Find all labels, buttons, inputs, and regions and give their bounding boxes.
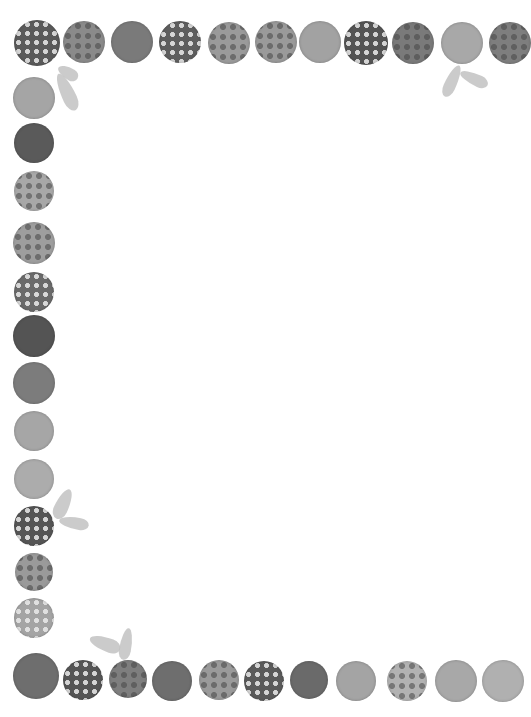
watercolor-circle [387,661,427,701]
watercolor-circle [13,315,55,357]
watercolor-circle [13,77,55,119]
watercolor-circle [290,661,328,699]
watercolor-circle [435,660,477,702]
watercolor-circle [255,21,297,63]
watercolor-circle [13,653,59,699]
watercolor-circle [14,459,54,499]
watercolor-circle [199,660,239,700]
watercolor-circle [14,272,54,312]
watercolor-circle [152,661,192,701]
watercolor-circle [489,22,531,64]
watercolor-circle [344,21,388,65]
watercolor-circle [336,661,376,701]
watercolor-circle [63,21,105,63]
watercolor-circle [13,222,55,264]
leaf-icon [58,514,90,531]
watercolor-circle [109,660,147,698]
watercolor-circle [244,661,284,701]
watercolor-circle [159,21,201,63]
watercolor-circle [15,553,53,591]
watercolor-circle [441,22,483,64]
watercolor-circle [14,171,54,211]
watercolor-circle [299,21,341,63]
watercolor-circle [482,660,524,702]
watercolor-circle [14,20,60,66]
watercolor-circle [208,22,250,64]
leaf-icon [88,632,123,656]
watercolor-circle [14,506,54,546]
watercolor-circle [14,411,54,451]
leaf-icon [117,627,134,661]
watercolor-circle [13,362,55,404]
watercolor-circle [63,660,103,700]
watercolor-circle [392,22,434,64]
leaf-icon [439,63,464,99]
watercolor-circle [111,21,153,63]
leaf-icon [458,67,490,91]
watercolor-circle [14,598,54,638]
watercolor-circle [14,123,54,163]
